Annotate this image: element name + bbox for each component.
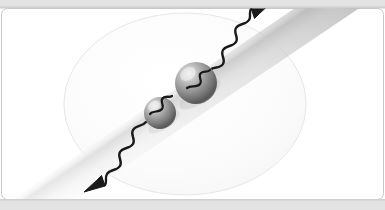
large-sphere (175, 62, 217, 104)
illustration-canvas (0, 0, 385, 210)
figure-container (0, 0, 385, 210)
bottom-gray-band (0, 200, 385, 210)
bottom-band-divider (0, 199, 385, 201)
small-sphere (144, 97, 176, 129)
